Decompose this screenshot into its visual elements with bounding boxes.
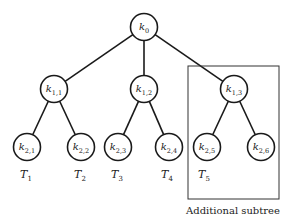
node-k22: k2,2 [68,134,95,161]
node-k24: k2,4 [156,134,183,161]
node-k25: k2,5 [194,134,221,161]
node-k0: k0 [131,14,158,41]
edge-k13-k25 [213,101,229,135]
tree-nodes: k0k1,1k1,2k1,3k2,1k2,2k2,3k2,4k2,5k2,6 [14,14,275,161]
tree-diagram: k0k1,1k1,2k1,3k2,1k2,2k2,3k2,4k2,5k2,6 T… [0,0,293,222]
edge-k0-k11 [65,35,133,82]
edge-k0-k13 [155,35,223,82]
node-k12: k1,2 [131,76,158,103]
edge-k12-k23 [124,101,139,134]
edge-k11-k22 [60,101,76,135]
node-k13: k1,3 [221,76,248,103]
node-k23: k2,3 [105,134,132,161]
leaf-labels: T1T2T3T4T5 [20,168,210,183]
subtree-label-t5: T5 [198,168,210,183]
subtree-label-t3: T3 [111,168,123,183]
edge-k11-k21 [33,101,49,135]
subtree-caption: Additional subtree [185,205,280,216]
edge-k12-k24 [149,101,163,134]
node-k26: k2,6 [248,134,275,161]
node-k21: k2,1 [14,134,41,161]
subtree-label-t4: T4 [161,168,173,183]
edge-k13-k26 [240,101,256,135]
node-k11: k1,1 [41,76,68,103]
subtree-label-t2: T2 [74,168,86,183]
subtree-label-t1: T1 [20,168,32,183]
